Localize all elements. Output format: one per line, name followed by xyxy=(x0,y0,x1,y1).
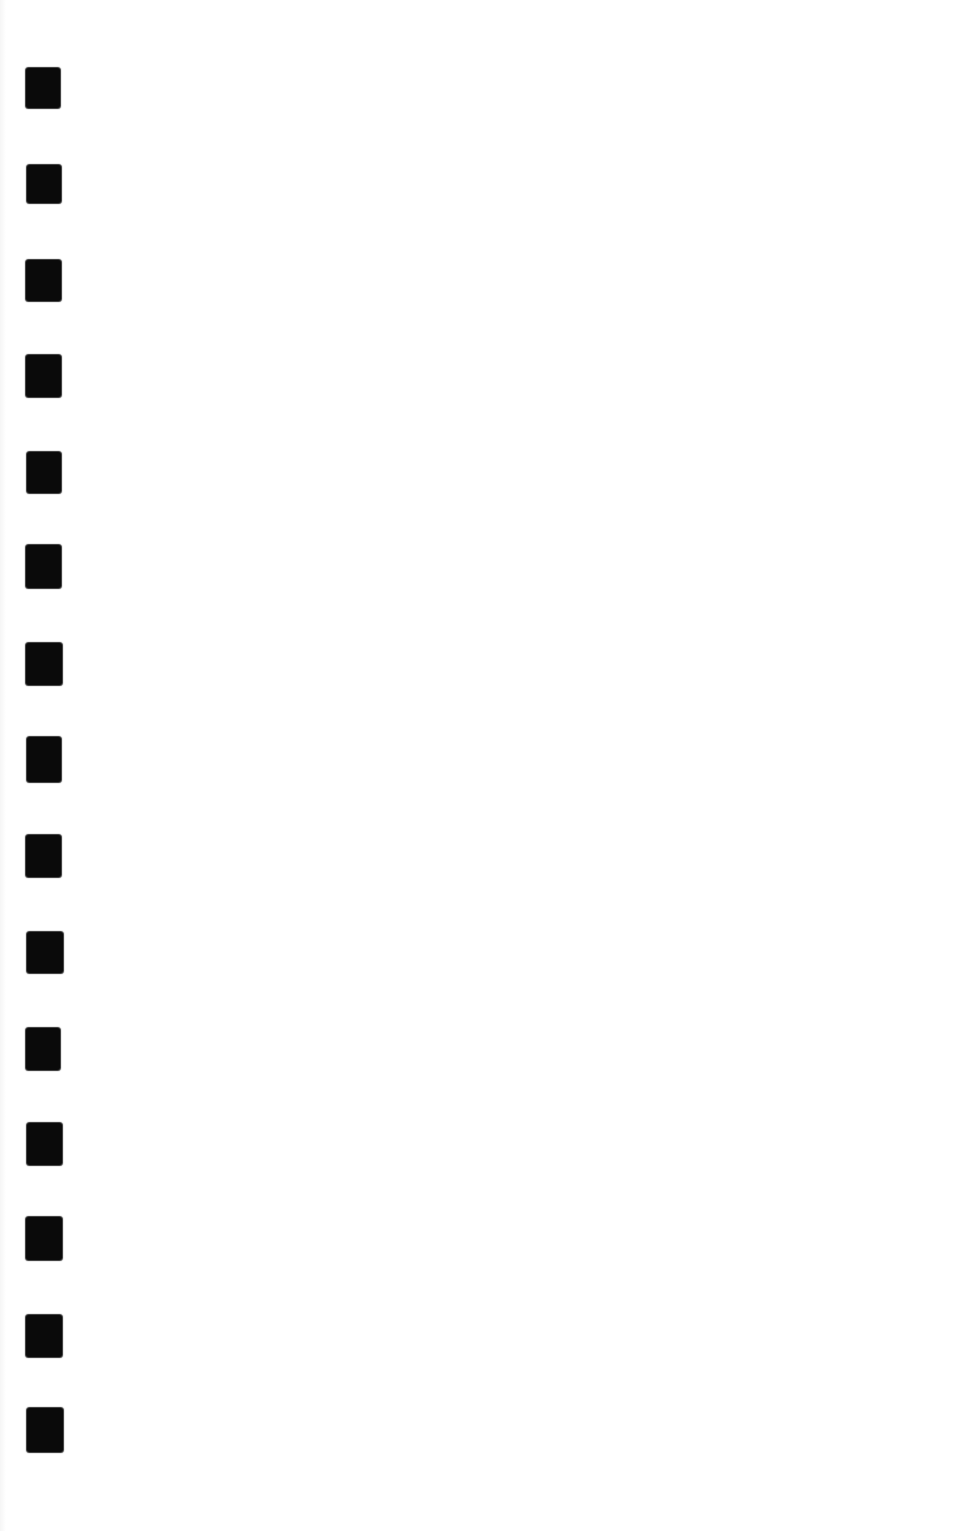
binding-mark xyxy=(27,737,61,782)
binding-mark xyxy=(26,835,61,877)
binding-mark xyxy=(26,68,60,108)
binding-mark xyxy=(27,165,61,203)
binding-mark xyxy=(26,260,61,301)
binding-mark xyxy=(27,932,63,973)
binding-mark xyxy=(27,1123,62,1165)
binding-mark xyxy=(26,545,61,588)
binding-mark xyxy=(26,1315,62,1357)
binding-mark xyxy=(27,452,61,493)
binding-mark xyxy=(26,1217,62,1260)
binding-mark xyxy=(26,1028,60,1070)
binding-mark xyxy=(26,643,62,685)
scan-page xyxy=(0,0,955,1531)
binding-mark xyxy=(26,355,61,397)
binding-mark xyxy=(27,1408,63,1452)
binding-marks-column xyxy=(0,0,955,1531)
